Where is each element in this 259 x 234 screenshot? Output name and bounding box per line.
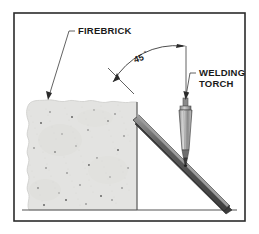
firebrick-grain xyxy=(72,181,73,182)
firebrick-grain xyxy=(82,107,83,108)
firebrick-grain xyxy=(70,175,71,176)
firebrick-grain xyxy=(91,186,92,187)
welding-torch-label-line1: WELDING xyxy=(199,67,245,78)
firebrick-grain xyxy=(109,130,110,131)
firebrick-grain xyxy=(30,165,31,166)
firebrick-grain xyxy=(115,148,116,149)
firebrick-grain xyxy=(120,111,121,112)
firebrick-grain xyxy=(46,109,47,110)
firebrick-grain xyxy=(35,128,36,129)
firebrick-speckle xyxy=(65,199,67,201)
firebrick-grain xyxy=(90,131,91,132)
firebrick-grain xyxy=(114,197,115,198)
firebrick-grain xyxy=(79,150,80,151)
firebrick-grain xyxy=(113,142,114,143)
firebrick-speckle xyxy=(111,199,113,201)
firebrick-grain xyxy=(76,193,77,194)
firebrick-grain xyxy=(130,141,131,142)
firebrick-grain xyxy=(66,163,67,164)
welding-angle-figure: 45 ° FIREBRICK WELDING TORCH xyxy=(0,0,259,234)
firebrick-grain xyxy=(92,137,93,138)
firebrick-grain xyxy=(112,191,113,192)
firebrick-grain xyxy=(126,129,127,130)
firebrick-speckle xyxy=(66,172,68,174)
firebrick-grain xyxy=(50,121,51,122)
firebrick-grain xyxy=(65,108,66,109)
firebrick-grain xyxy=(125,178,126,179)
firebrick-grain xyxy=(124,123,125,124)
firebrick-grain xyxy=(47,164,48,165)
firebrick-grain xyxy=(89,180,90,181)
firebrick-grain xyxy=(69,120,70,121)
firebrick-grain xyxy=(67,114,68,115)
firebrick-grain xyxy=(51,176,52,177)
firebrick-grain xyxy=(118,105,119,106)
firebrick-grain xyxy=(122,117,123,118)
firebrick xyxy=(27,100,137,210)
firebrick-speckle xyxy=(85,203,87,205)
firebrick-grain xyxy=(43,152,44,153)
welding-torch-label-line2: TORCH xyxy=(199,78,234,89)
firebrick-grain xyxy=(48,115,49,116)
firebrick-grain xyxy=(127,184,128,185)
firebrick-grain xyxy=(93,192,94,193)
firebrick-grain xyxy=(74,187,75,188)
firebrick-speckle xyxy=(121,187,123,189)
torch-collar xyxy=(180,106,191,110)
firebrick-speckle xyxy=(49,111,51,113)
firebrick-speckle xyxy=(87,129,89,131)
firebrick-grain xyxy=(32,171,33,172)
firebrick-grain xyxy=(117,154,118,155)
firebrick-grain xyxy=(128,135,129,136)
torch-contact-point xyxy=(184,164,187,167)
firebrick-grain xyxy=(34,177,35,178)
firebrick-label: FIREBRICK xyxy=(78,25,132,36)
firebrick-grain xyxy=(116,203,117,204)
firebrick-grain xyxy=(68,169,69,170)
firebrick-grain xyxy=(81,156,82,157)
firebrick-grain xyxy=(64,157,65,158)
firebrick-grain xyxy=(29,110,30,111)
firebrick-grain xyxy=(85,168,86,169)
firebrick-speckle xyxy=(123,135,125,137)
firebrick-grain xyxy=(33,122,34,123)
firebrick-grain xyxy=(129,190,130,191)
firebrick-grain xyxy=(31,116,32,117)
firebrick-grain xyxy=(78,199,79,200)
firebrick-grain xyxy=(45,158,46,159)
firebrick-speckle xyxy=(43,204,45,206)
firebrick-speckle xyxy=(71,116,73,118)
firebrick-grain xyxy=(87,174,88,175)
firebrick-speckle xyxy=(117,149,119,151)
figure-canvas: 45 ° FIREBRICK WELDING TORCH xyxy=(0,0,259,234)
firebrick-speckle xyxy=(100,195,102,197)
firebrick-grain xyxy=(49,170,50,171)
firebrick-grain xyxy=(44,207,45,208)
torch-nozzle xyxy=(182,150,189,158)
firebrick-grain xyxy=(110,185,111,186)
firebrick-grain xyxy=(37,134,38,135)
firebrick-speckle xyxy=(114,113,116,115)
firebrick-speckle xyxy=(33,147,35,149)
firebrick-grain xyxy=(80,205,81,206)
firebrick-speckle xyxy=(45,167,47,169)
firebrick-grain xyxy=(111,136,112,137)
firebrick-speckle xyxy=(40,122,42,124)
firebrick-speckle xyxy=(79,184,81,186)
firebrick-grain xyxy=(83,162,84,163)
firebrick-grain xyxy=(101,106,102,107)
